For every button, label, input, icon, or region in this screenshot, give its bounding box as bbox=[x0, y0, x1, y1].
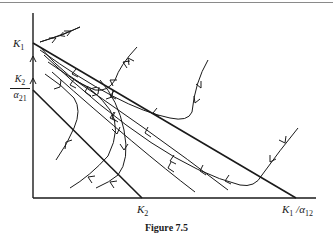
phase-plane-figure: K1 K2 α21 K2 K1 /α12 Figure 7.5 bbox=[0, 0, 333, 240]
figure-caption: Figure 7.5 bbox=[0, 222, 333, 233]
label-k2-alpha-denominator: α21 bbox=[10, 89, 30, 104]
label-k2-x-axis: K2 bbox=[137, 203, 148, 218]
label-k1-y-axis: K1 bbox=[13, 37, 24, 52]
label-k1-alpha-slash: /α bbox=[293, 203, 305, 215]
label-k2-over-alpha21: K2 α21 bbox=[10, 73, 30, 104]
trajectories bbox=[40, 27, 298, 192]
label-k1-over-alpha12: K1 /α12 bbox=[282, 203, 313, 218]
label-k2-alpha-num-sub: 2 bbox=[21, 78, 25, 87]
axes bbox=[33, 13, 316, 198]
nullcline-upper bbox=[33, 43, 296, 198]
label-k2-alpha-den-sub: 21 bbox=[19, 94, 27, 103]
nullclines bbox=[33, 43, 296, 198]
label-k1-sub: 1 bbox=[20, 43, 24, 52]
label-k1-alpha-sub2: 12 bbox=[305, 209, 313, 218]
label-k2-alpha-numerator: K2 bbox=[10, 73, 30, 89]
label-k2-x-sub: 2 bbox=[144, 209, 148, 218]
